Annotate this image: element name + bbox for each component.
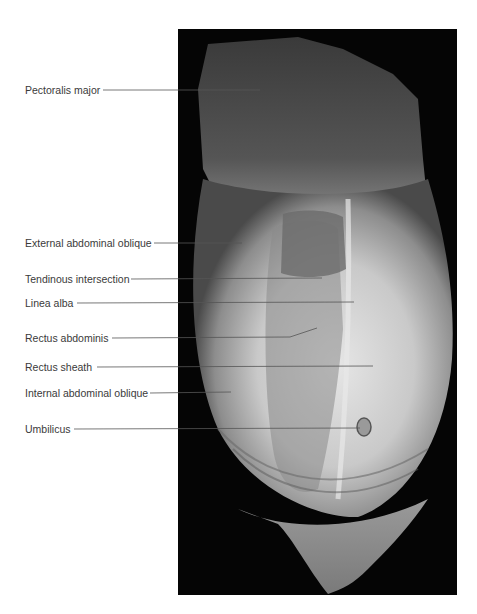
label-umbilicus: Umbilicus <box>25 423 71 435</box>
label-pectoralis-major: Pectoralis major <box>25 84 100 96</box>
label-tendinous-intersection: Tendinous intersection <box>25 273 129 285</box>
anatomy-photo <box>178 29 457 595</box>
label-rectus-abdominis: Rectus abdominis <box>25 332 108 344</box>
label-linea-alba: Linea alba <box>25 297 73 309</box>
label-external-abdominal-oblique: External abdominal oblique <box>25 237 152 249</box>
label-internal-abdominal-oblique: Internal abdominal oblique <box>25 387 148 399</box>
label-rectus-sheath: Rectus sheath <box>25 361 92 373</box>
torso-illustration <box>178 29 457 595</box>
